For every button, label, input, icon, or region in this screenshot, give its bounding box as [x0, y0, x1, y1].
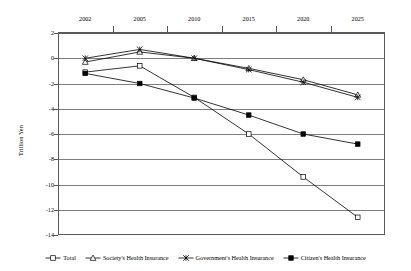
x-axis-tick-mark	[167, 26, 168, 33]
y-axis-tick-label: -6	[32, 131, 54, 137]
x-axis-tick-mark	[222, 26, 223, 33]
legend-item[interactable]: Total	[45, 254, 76, 262]
y-axis-tick-label: -2	[32, 80, 54, 86]
x-axis-tick-label: 2020	[297, 15, 309, 23]
chart-legend: TotalSociety's Health InsuranceGovernmen…	[0, 252, 411, 264]
legend-marker-open-square-icon	[45, 254, 61, 262]
x-axis-tick-label: 2025	[352, 15, 364, 23]
x-axis-tick-mark	[276, 26, 277, 33]
legend-label: Total	[63, 254, 76, 262]
gridline	[59, 185, 384, 186]
gridline	[59, 58, 384, 59]
legend-item[interactable]: Government's Health Insurance	[178, 254, 274, 262]
y-axis-tick-label: 0	[32, 55, 54, 61]
plot-area	[58, 33, 385, 235]
data-point-marker	[51, 256, 56, 261]
x-axis-tick-label: 2002	[79, 15, 91, 23]
y-axis-tick-mark	[54, 235, 58, 236]
legend-item[interactable]: Citizen's Health Insurance	[283, 254, 366, 262]
y-axis-tick-label: -8	[32, 156, 54, 162]
legend-marker-filled-square-icon	[283, 254, 299, 262]
x-axis-tick-label: 2015	[243, 15, 255, 23]
chart-container: Trillion Yen 20-2-4-6-8-10-12-14 2002200…	[0, 0, 411, 271]
gridline	[59, 84, 384, 85]
legend-marker-cross-star-icon	[178, 254, 194, 262]
x-axis-tick-label: 2010	[188, 15, 200, 23]
y-axis-tick-label: -12	[32, 207, 54, 213]
y-axis-tick-labels: 20-2-4-6-8-10-12-14	[30, 33, 54, 235]
legend-label: Government's Health Insurance	[196, 254, 274, 262]
x-axis-tick-mark	[113, 26, 114, 33]
gridline	[59, 134, 384, 135]
gridline	[59, 109, 384, 110]
legend-item[interactable]: Society's Health Insurance	[85, 254, 169, 262]
legend-label: Society's Health Insurance	[103, 254, 169, 262]
legend-label: Citizen's Health Insurance	[301, 254, 366, 262]
data-point-marker	[288, 256, 293, 261]
x-axis-tick-labels: 200220052010201520202025	[58, 15, 385, 25]
legend-marker-open-triangle-icon	[85, 254, 101, 262]
y-axis-tick-label: -10	[32, 181, 54, 187]
y-axis-tick-label: -4	[32, 106, 54, 112]
y-axis-tick-label: -14	[32, 232, 54, 238]
gridline	[59, 159, 384, 160]
y-axis-tick-label: 2	[32, 30, 54, 36]
x-axis-tick-label: 2005	[134, 15, 146, 23]
gridline	[59, 210, 384, 211]
x-axis-tick-mark	[331, 26, 332, 33]
y-axis-title: Trillion Yen	[17, 142, 24, 156]
x-axis-tick-marks	[58, 26, 385, 33]
